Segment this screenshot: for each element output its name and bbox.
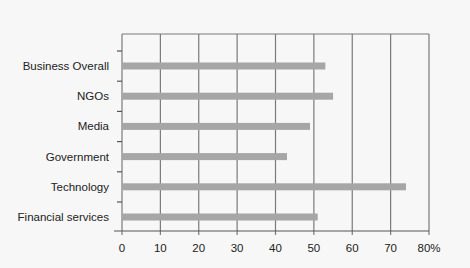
bar-business-overall bbox=[122, 63, 325, 70]
bar-financial-services bbox=[122, 214, 318, 221]
x-tick-label: 50 bbox=[307, 242, 320, 254]
y-category-label: Financial services bbox=[18, 211, 109, 223]
bar-government bbox=[122, 153, 287, 160]
y-category-label: Technology bbox=[51, 181, 109, 193]
x-tick-label: 20 bbox=[192, 242, 205, 254]
y-category-label: Business Overall bbox=[23, 60, 109, 72]
y-category-label: Government bbox=[46, 151, 109, 163]
plot-area bbox=[0, 0, 470, 268]
y-category-label: Media bbox=[78, 120, 109, 132]
bar-technology bbox=[122, 183, 406, 190]
bar-ngos bbox=[122, 93, 333, 100]
horizontal-bar-chart: 01020304050607080%Business OverallNGOsMe… bbox=[0, 0, 470, 268]
x-tick-label: 30 bbox=[231, 242, 244, 254]
x-tick-label: 70 bbox=[384, 242, 397, 254]
y-category-label: NGOs bbox=[77, 90, 109, 102]
bar-media bbox=[122, 123, 310, 130]
x-tick-label: 80% bbox=[417, 242, 440, 254]
x-tick-label: 40 bbox=[269, 242, 282, 254]
x-tick-label: 10 bbox=[154, 242, 167, 254]
x-tick-label: 60 bbox=[346, 242, 359, 254]
x-tick-label: 0 bbox=[119, 242, 125, 254]
